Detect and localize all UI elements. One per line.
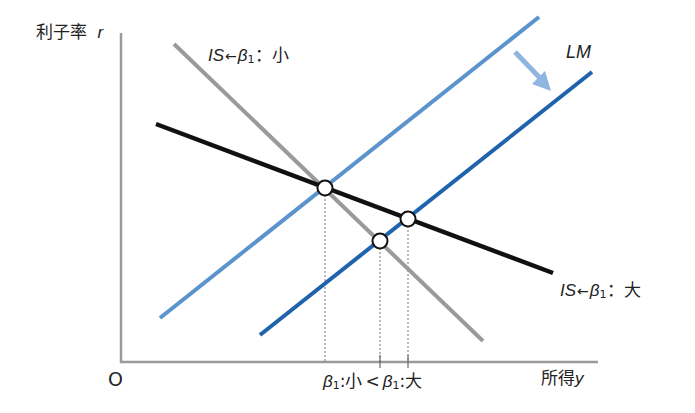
is-label: IS [560, 281, 576, 300]
beta-large-value: :大 [399, 371, 422, 391]
beta-value: 大 [624, 280, 641, 300]
beta-subscript: 1 [248, 53, 255, 66]
equilibrium-point-beta-large [401, 212, 416, 227]
y-axis-label-text: 利子率 [36, 22, 87, 42]
colon: ： [607, 280, 624, 300]
colon: ： [255, 45, 272, 65]
equilibrium-point-initial [318, 181, 333, 196]
beta-value: 小 [272, 45, 289, 65]
beta-subscript: 1 [333, 379, 340, 392]
lm-shift-arrow-icon [515, 52, 551, 91]
x-axis-beta-comparison: β1:小<β1:大 [323, 373, 422, 391]
is-label: IS [208, 46, 224, 65]
less-than-sign: < [365, 371, 379, 391]
equilibrium-point-beta-small [373, 234, 388, 249]
beta-subscript: 1 [600, 288, 607, 301]
beta-symbol: β [383, 372, 393, 391]
origin-label: O [108, 370, 123, 389]
y-axis-variable: r [97, 23, 103, 42]
is-beta-large-label: IS←β1：大 [560, 282, 641, 300]
beta-symbol: β [323, 372, 333, 391]
lm-curve-shifted [260, 72, 592, 335]
y-axis-label: 利子率 r [36, 24, 103, 41]
x-axis-label-text: 所得 [541, 368, 575, 388]
lm-label: LM [566, 43, 591, 61]
left-arrow-icon: ← [577, 283, 589, 299]
beta-small-value: :小 [340, 371, 363, 391]
is-beta-small-label: IS←β1：小 [208, 47, 289, 65]
left-arrow-icon: ← [225, 48, 237, 64]
beta-symbol: β [238, 46, 248, 65]
is-curve-beta-large [156, 124, 553, 273]
x-axis-label: 所得y [541, 370, 584, 387]
x-axis-variable: y [575, 369, 584, 388]
beta-symbol: β [590, 281, 600, 300]
